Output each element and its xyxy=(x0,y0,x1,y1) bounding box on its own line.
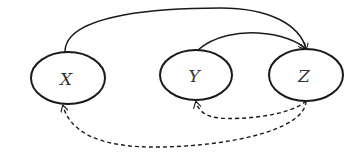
node-y: Y xyxy=(160,50,232,100)
causal-diagram: X Y Z xyxy=(0,0,359,158)
node-y-label: Y xyxy=(188,66,201,86)
edge-z-to-x-dashed xyxy=(63,101,306,147)
edge-y-to-z xyxy=(198,33,305,50)
node-x: X xyxy=(31,52,105,104)
node-z-label: Z xyxy=(297,66,311,86)
edge-z-to-y-dashed xyxy=(196,101,306,118)
node-z: Z xyxy=(269,49,343,101)
edge-x-to-z xyxy=(65,8,306,52)
node-x-label: X xyxy=(58,69,73,89)
